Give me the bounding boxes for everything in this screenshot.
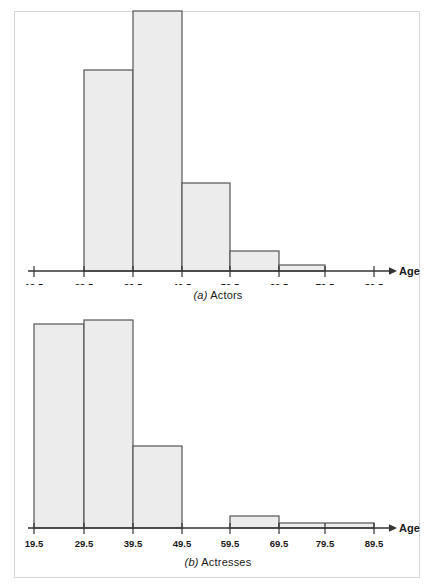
actors-x-tick-labels: 19.5 29.5 39.5 49.5 59.5 69.5 79.5 89.5: [25, 281, 384, 285]
actors-caption: (a) Actors: [0, 289, 436, 301]
tick-label: 79.5: [316, 538, 335, 549]
chart-panel-actresses: 19.5 29.5 39.5 49.5 59.5 69.5 79.5 89.5 …: [0, 310, 436, 580]
chart-panel-actors: 19.5 29.5 39.5 49.5 59.5 69.5 79.5 89.5 …: [0, 0, 436, 295]
actors-bars: [84, 11, 325, 271]
bar-actors-29.5-39.5: [84, 70, 133, 271]
tick-label: 19.5: [25, 538, 44, 549]
actors-plot: 19.5 29.5 39.5 49.5 59.5 69.5 79.5 89.5 …: [0, 0, 436, 285]
actresses-x-axis-label: Age: [399, 522, 420, 534]
tick-label: 29.5: [75, 538, 94, 549]
actors-caption-prefix: (a): [193, 289, 207, 301]
bar-actresses-69.5-89.5: [279, 523, 374, 528]
tick-label: 89.5: [365, 538, 384, 549]
actresses-caption-text: Actresses: [201, 556, 251, 568]
bar-actors-59.5-69.5: [230, 251, 279, 271]
tick-label: 39.5: [124, 538, 143, 549]
tick-label: 69.5: [270, 538, 289, 549]
tick-label: 19.5: [25, 281, 44, 285]
actresses-bars: [34, 320, 374, 528]
tick-label: 49.5: [173, 538, 192, 549]
actresses-caption-prefix: (b): [185, 556, 199, 568]
actors-x-axis-label: Age: [399, 265, 420, 277]
actresses-x-tick-labels: 19.5 29.5 39.5 49.5 59.5 69.5 79.5 89.5: [25, 538, 384, 549]
bar-actresses-19.5-29.5: [34, 324, 84, 528]
tick-label: 39.5: [124, 281, 143, 285]
tick-label: 89.5: [365, 281, 384, 285]
actresses-caption: (b) Actresses: [0, 556, 436, 568]
bar-actresses-59.5-69.5: [230, 516, 279, 528]
actresses-plot: 19.5 29.5 39.5 49.5 59.5 69.5 79.5 89.5 …: [0, 310, 436, 552]
tick-label: 79.5: [316, 281, 335, 285]
tick-label: 49.5: [173, 281, 192, 285]
bar-actors-39.5-49.5: [133, 11, 182, 271]
tick-label: 29.5: [75, 281, 94, 285]
bar-actresses-39.5-49.5: [133, 446, 182, 528]
actors-caption-text: Actors: [210, 289, 242, 301]
bar-actors-49.5-59.5: [182, 183, 230, 271]
tick-label: 69.5: [270, 281, 289, 285]
tick-label: 59.5: [221, 538, 240, 549]
tick-label: 59.5: [221, 281, 240, 285]
bar-actresses-29.5-39.5: [84, 320, 133, 528]
bar-actors-69.5-79.5: [279, 265, 325, 271]
